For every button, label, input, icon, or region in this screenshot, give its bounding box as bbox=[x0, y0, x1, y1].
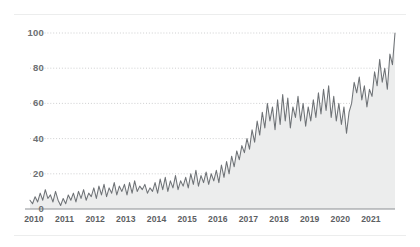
y-axis-tick: 0 bbox=[0, 204, 44, 214]
y-axis-tick: 100 bbox=[0, 28, 44, 38]
x-axis-tick-label: 2021 bbox=[351, 214, 391, 224]
y-axis-tick: 60 bbox=[0, 98, 44, 108]
line-chart-plot bbox=[0, 0, 420, 247]
y-axis-tick-label: 20 bbox=[10, 169, 44, 179]
y-axis-tick: 40 bbox=[0, 134, 44, 144]
y-axis-tick: 80 bbox=[0, 63, 44, 73]
y-axis-tick-label: 100 bbox=[10, 28, 44, 38]
y-axis-tick-label: 40 bbox=[10, 134, 44, 144]
y-axis-tick-label: 60 bbox=[10, 98, 44, 108]
chart-container: 020406080100 201020112012201320142015201… bbox=[0, 0, 420, 247]
area-fill bbox=[30, 33, 395, 209]
y-axis-tick: 20 bbox=[0, 169, 44, 179]
y-axis-tick-label: 0 bbox=[10, 204, 44, 214]
y-axis-tick-label: 80 bbox=[10, 63, 44, 73]
